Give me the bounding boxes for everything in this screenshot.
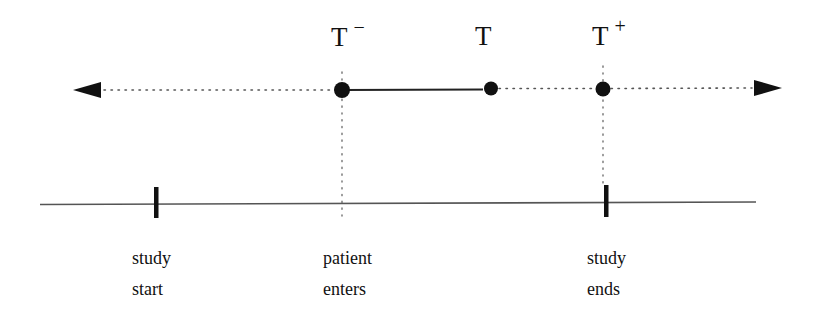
study-ends-label: study ends: [587, 248, 631, 299]
left-arrowhead-icon: [73, 82, 101, 98]
time-axis-dotted-right: [611, 88, 752, 89]
t-minus-label: T−: [331, 16, 365, 52]
study-ends-tick: [604, 185, 609, 217]
t-label: T: [475, 21, 492, 51]
timeline-diagram: T− T T+ study start patient enters study…: [0, 0, 821, 316]
time-axis-solid-segment: [342, 90, 483, 91]
patient-enters-label: patient enters: [323, 248, 376, 299]
study-start-label: study start: [132, 248, 176, 299]
right-arrowhead-icon: [754, 80, 782, 96]
t-minus-point: [334, 82, 350, 98]
t-plus-label: T+: [592, 15, 626, 51]
study-start-tick: [154, 187, 159, 218]
t-plus-point: [596, 82, 611, 97]
t-point: [484, 82, 498, 96]
study-axis-line: [40, 202, 756, 205]
